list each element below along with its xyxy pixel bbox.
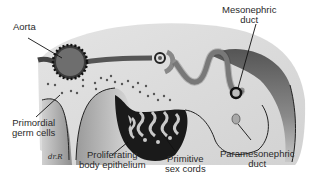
label-proliferating-line2: body epithelium bbox=[79, 160, 146, 170]
artist-signature: dr.R bbox=[48, 153, 63, 161]
label-aorta: Aorta bbox=[13, 22, 36, 32]
label-primitive-line2: sex cords bbox=[165, 164, 206, 174]
embryo-diagram: Aorta Mesonephric duct Primordial germ c… bbox=[0, 0, 310, 181]
label-paramesonephric-line2: duct bbox=[220, 159, 294, 169]
label-primitive-sex-cords: Primitive sex cords bbox=[165, 154, 206, 174]
label-primordial-germ-cells: Primordial germ cells bbox=[12, 118, 55, 138]
mesonephric-duct bbox=[231, 88, 241, 98]
paramesonephric-duct bbox=[232, 114, 240, 124]
label-paramesonephric-duct: Paramesonephric duct bbox=[220, 149, 294, 169]
label-aorta-text: Aorta bbox=[13, 22, 36, 32]
label-mesonephric-duct: Mesonephric duct bbox=[222, 5, 276, 25]
label-proliferating-body-epithelium: Proliferating body epithelium bbox=[79, 150, 146, 170]
label-primordial-line2: germ cells bbox=[12, 128, 55, 138]
label-mesonephric-line2: duct bbox=[222, 15, 276, 25]
